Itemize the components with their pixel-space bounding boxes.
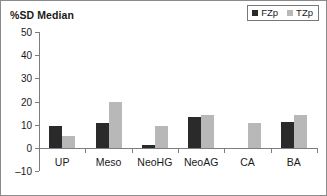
y-axis-tick [35,171,39,172]
x-axis-label: NeoAG [184,156,218,168]
x-axis-label: NeoHG [137,156,172,168]
x-axis-tick [317,148,318,153]
chart-legend: FZp TZp [247,5,319,21]
legend-swatch-tzp [287,10,293,16]
y-axis-tick-label: 20 [21,96,32,107]
y-axis-tick [35,125,39,126]
y-axis-tick [35,78,39,79]
legend-label-tzp: TZp [296,8,313,18]
y-axis-tick [35,102,39,103]
bar-tzp [294,115,307,148]
legend-item-tzp: TZp [287,8,313,18]
y-axis-tick [35,55,39,56]
plot-area: 50403020100–10 UPMesoNeoHGNeoAGCABA [39,32,317,171]
legend-swatch-fzp [252,10,258,16]
legend-item-fzp: FZp [252,8,278,18]
chart-figure: %SD Median FZp TZp 50403020100–10 UPMeso… [0,0,327,196]
x-axis-label: CA [240,156,255,168]
x-axis-tick [39,148,40,153]
y-axis-tick-label: 10 [21,119,32,130]
y-axis-tick [35,32,39,33]
x-axis-label: BA [287,156,301,168]
x-axis-label: UP [55,156,70,168]
y-axis-tick-label: 50 [21,27,32,38]
bar-tzp [109,102,122,148]
x-axis-tick [178,148,179,153]
legend-label-fzp: FZp [261,8,278,18]
bar-fzp [281,122,294,148]
bar-fzp [188,117,201,148]
bar-tzp [248,123,261,148]
bar-tzp [62,136,75,148]
chart-title: %SD Median [10,9,74,21]
bar-fzp [142,145,155,148]
bar-tzp [155,126,168,148]
bar-fzp [96,123,109,148]
y-axis-tick-label: 30 [21,73,32,84]
bar-fzp [49,126,62,148]
y-axis-tick-label: 0 [26,142,32,153]
y-axis-tick-label: –10 [15,166,32,177]
x-axis-tick [132,148,133,153]
x-axis-tick [271,148,272,153]
x-axis-label: Meso [96,156,122,168]
y-axis-tick-label: 40 [21,50,32,61]
x-axis-tick [85,148,86,153]
x-axis-tick [224,148,225,153]
bar-tzp [201,115,214,148]
